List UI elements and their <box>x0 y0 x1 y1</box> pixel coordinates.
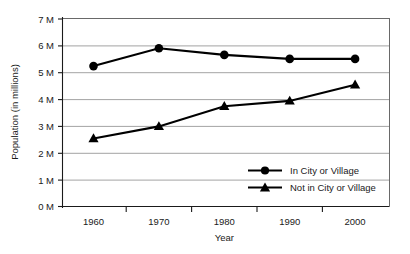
x-tick-label-1980: 1980 <box>214 216 235 227</box>
data-point-in-city-1970 <box>155 44 164 53</box>
x-tick-label-1990: 1990 <box>279 216 300 227</box>
series-not-in-city-or-village <box>88 80 360 143</box>
legend-label-not-in-city: Not in City or Village <box>290 182 376 193</box>
x-tick-label-1970: 1970 <box>148 216 169 227</box>
y-tick-label-1m: 1 M <box>38 175 54 186</box>
x-tick-label-2000: 2000 <box>345 216 366 227</box>
y-tick-label-2m: 2 M <box>38 148 54 159</box>
y-axis-title: Population (in millions) <box>9 64 20 160</box>
data-point-not-in-city-2000 <box>350 80 360 89</box>
legend-label-in-city: In City or Village <box>290 165 359 176</box>
y-tick-label-6m: 6 M <box>38 40 54 51</box>
series-line-not-in-city <box>94 85 356 139</box>
x-tick-labels: 1960 1970 1980 1990 2000 <box>83 216 366 227</box>
gridlines <box>63 46 389 180</box>
legend-entry-in-city: In City or Village <box>248 165 359 176</box>
y-tick-label-7m: 7 M <box>38 14 54 25</box>
data-point-in-city-1960 <box>89 62 98 71</box>
x-tick-marks <box>126 207 322 213</box>
population-line-chart: 7 M 6 M 5 M 4 M 3 M 2 M 1 M 0 M 1960 197… <box>0 0 410 254</box>
data-point-in-city-1990 <box>285 55 294 64</box>
series-in-city-or-village <box>89 44 359 71</box>
legend-marker-circle-icon <box>261 166 269 174</box>
y-tick-label-4m: 4 M <box>38 94 54 105</box>
y-tick-label-5m: 5 M <box>38 67 54 78</box>
y-tick-labels: 7 M 6 M 5 M 4 M 3 M 2 M 1 M 0 M <box>38 14 54 213</box>
x-tick-label-1960: 1960 <box>83 216 104 227</box>
data-point-in-city-1980 <box>220 51 229 60</box>
y-tick-label-3m: 3 M <box>38 121 54 132</box>
chart-canvas: 7 M 6 M 5 M 4 M 3 M 2 M 1 M 0 M 1960 197… <box>0 0 410 254</box>
plot-frame <box>63 19 390 207</box>
x-axis-title: Year <box>215 232 234 243</box>
y-tick-label-0m: 0 M <box>38 201 54 212</box>
legend-entry-not-in-city: Not in City or Village <box>248 182 376 193</box>
data-point-in-city-2000 <box>351 55 360 64</box>
chart-legend: In City or Village Not in City or Villag… <box>248 165 376 193</box>
